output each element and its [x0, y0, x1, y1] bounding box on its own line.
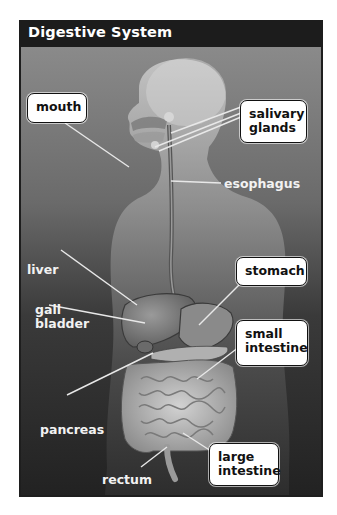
label-small-intestine: small intestine: [236, 320, 308, 366]
label-stomach: stomach: [236, 257, 307, 286]
label-small-intestine-line2: intestine: [245, 341, 299, 355]
salivary-gland-2: [151, 141, 159, 149]
label-gall-bladder-line2: bladder: [35, 317, 89, 331]
digestive-system-figure: Digestive System: [19, 20, 323, 497]
label-pancreas: pancreas: [40, 423, 104, 437]
label-mouth: mouth: [27, 93, 87, 123]
figure-title: Digestive System: [28, 24, 172, 40]
label-salivary-glands-line2: glands: [249, 121, 298, 135]
label-gall-bladder: gall bladder: [35, 303, 89, 331]
label-salivary-glands: salivary glands: [240, 100, 307, 143]
label-gall-bladder-line1: gall: [35, 303, 89, 317]
label-esophagus: esophagus: [224, 177, 300, 191]
gall-bladder-organ: [137, 341, 153, 353]
salivary-gland-1: [164, 112, 174, 122]
label-large-intestine-line1: large: [218, 450, 270, 464]
label-large-intestine-line2: intestine: [218, 464, 270, 478]
label-liver: liver: [27, 263, 58, 277]
label-stomach-text: stomach: [245, 263, 305, 278]
label-small-intestine-line1: small: [245, 327, 299, 341]
label-salivary-glands-line1: salivary: [249, 107, 298, 121]
label-rectum: rectum: [102, 473, 152, 487]
label-mouth-text: mouth: [36, 99, 81, 114]
figure-titlebar: Digestive System: [19, 20, 323, 47]
label-large-intestine: large intestine: [209, 443, 279, 486]
